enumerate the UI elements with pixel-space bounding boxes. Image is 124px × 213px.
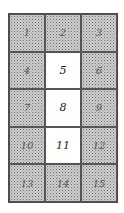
grid-cell-3: 3: [81, 14, 117, 52]
grid-cell-4: 4: [9, 52, 45, 90]
grid-cell-5: 5: [45, 52, 81, 90]
grid-cell-9: 9: [81, 89, 117, 127]
grid-cell-1: 1: [9, 14, 45, 52]
grid-cell-6: 6: [81, 52, 117, 90]
grid-cell-2: 2: [45, 14, 81, 52]
grid-cell-11: 11: [45, 127, 81, 165]
grid-cell-14: 14: [45, 164, 81, 202]
numbered-grid-diagram: 1 2 3 4 5 6 7 8 9 10 11 12 13 14 15: [8, 13, 118, 203]
grid-cell-8: 8: [45, 89, 81, 127]
grid-cell-7: 7: [9, 89, 45, 127]
grid-cell-12: 12: [81, 127, 117, 165]
grid-cell-13: 13: [9, 164, 45, 202]
grid-cell-10: 10: [9, 127, 45, 165]
grid-cell-15: 15: [81, 164, 117, 202]
